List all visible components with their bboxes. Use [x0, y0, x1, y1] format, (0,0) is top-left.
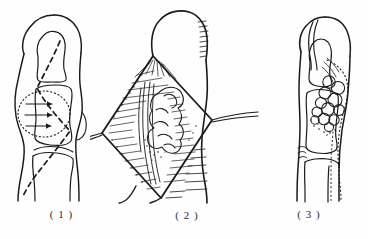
- arrow-3: [26, 123, 51, 128]
- rhomboid-flap-outline: [102, 56, 212, 198]
- proximal-phalanx-outline: [33, 153, 73, 201]
- dotted-tumor-extent-inner: [331, 132, 333, 202]
- panel-3-caption: ( 3 ): [250, 208, 368, 220]
- finger-outline-right-lower: [76, 53, 83, 201]
- dotted-oval-lesion: [18, 91, 70, 137]
- fingertip-outline: [152, 11, 208, 60]
- proximal-phalanx-outline: [305, 159, 339, 165]
- distal-phalanx-outline: [309, 39, 332, 87]
- left-retractor-suture: [90, 133, 102, 142]
- panel-2-caption: ( 2 ): [112, 209, 262, 221]
- finger-outline-right: [54, 15, 81, 53]
- distal-phalanx-outline: [37, 31, 66, 82]
- panel-1-caption: ( 1 ): [0, 208, 123, 220]
- right-retractor-suture: [212, 112, 258, 122]
- nail-plate-contour: [314, 20, 318, 70]
- arrow-2: [25, 112, 52, 117]
- finger-outline-right-lower: [339, 56, 350, 201]
- figure-root: ( 1 ): [0, 0, 368, 239]
- dashed-incision-line: [23, 41, 70, 196]
- panel-2-flap-exposure: [90, 0, 275, 209]
- finger-outline-left: [23, 15, 54, 54]
- lobulated-tumor-cluster: [311, 76, 345, 132]
- flexor-tendon-fibers: [139, 82, 160, 184]
- tumor-cluster-stipple: [310, 119, 336, 135]
- finger-outline-right: [325, 17, 350, 56]
- finger-outline-left-lower: [297, 52, 301, 201]
- flap-apex-hatch: [135, 60, 176, 79]
- finger-outline-bottom-left: [150, 198, 161, 203]
- finger-outline-left-below-flap: [119, 186, 136, 203]
- proximal-phalanx-right-shaft: [328, 166, 329, 202]
- panel-3-tumor-extent: [283, 0, 368, 205]
- interphalangeal-joint-line: [34, 147, 73, 152]
